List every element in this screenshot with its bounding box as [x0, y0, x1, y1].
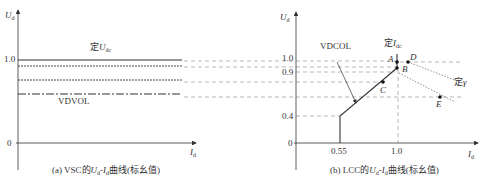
- left-tick-0: 0: [7, 139, 12, 148]
- point-d-label: D: [410, 53, 417, 62]
- point-c-label: C: [380, 86, 386, 95]
- right-tick-1-0: 1.0: [282, 54, 293, 63]
- left-chart: [16, 10, 196, 170]
- const-gamma-label: 定γ: [454, 78, 467, 87]
- right-y-axis-label: Ud: [280, 13, 290, 23]
- right-x-axis-label: Id: [468, 150, 474, 160]
- point-a-label: A: [388, 55, 394, 64]
- figure-canvas: [0, 0, 480, 182]
- point-b: [395, 66, 399, 70]
- vdvol-label: VDVOL: [58, 97, 90, 106]
- left-x-axis-label: Id: [190, 148, 196, 158]
- left-y-axis-label: Ud: [5, 11, 15, 21]
- right-caption: (b) LCC的Ud-Id曲线(标幺值): [330, 163, 439, 176]
- const-udc-label: 定Udc: [90, 43, 111, 53]
- left-caption: (a) VSC的Ud-Id曲线(标幺值): [52, 163, 160, 176]
- x-tick-1-0: 1.0: [391, 147, 402, 156]
- vdcol-curve: [340, 68, 397, 143]
- x-tick-0-55: 0.55: [331, 147, 347, 156]
- point-c: [381, 80, 385, 84]
- vdcol-label: VDCOL: [320, 42, 351, 51]
- const-gamma-line-2: [399, 73, 455, 102]
- guide-lines: [184, 61, 463, 143]
- point-b-label: B: [402, 65, 408, 74]
- const-idc-label: 定Idc: [384, 39, 402, 49]
- point-e-label: E: [436, 100, 442, 109]
- right-tick-0-4: 0.4: [282, 112, 293, 121]
- point-a: [395, 60, 399, 64]
- right-tick-0: 0: [288, 139, 293, 148]
- left-tick-1-0: 1.0: [4, 55, 15, 64]
- right-tick-0-9: 0.9: [282, 68, 293, 77]
